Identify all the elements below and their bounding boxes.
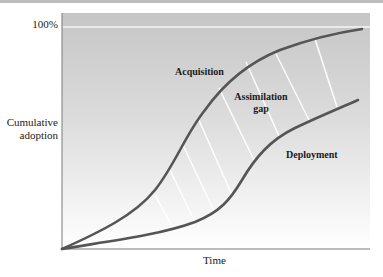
plot-area [62, 13, 370, 249]
assimilation-gap-label: Assimilation gap [234, 91, 288, 115]
deployment-label: Deployment [286, 149, 338, 160]
y-tick-100-percent: 100% [6, 18, 58, 31]
x-axis-label: Time [203, 254, 226, 266]
acquisition-label: Acquisition [175, 66, 224, 77]
y-axis-label-line2: adoption [0, 129, 58, 142]
assimilation-gap-label-line1: Assimilation [234, 91, 288, 103]
y-axis-label: Cumulative adoption [0, 116, 58, 142]
y-axis-label-line1: Cumulative [0, 116, 58, 129]
assimilation-gap-label-line2: gap [234, 103, 288, 115]
